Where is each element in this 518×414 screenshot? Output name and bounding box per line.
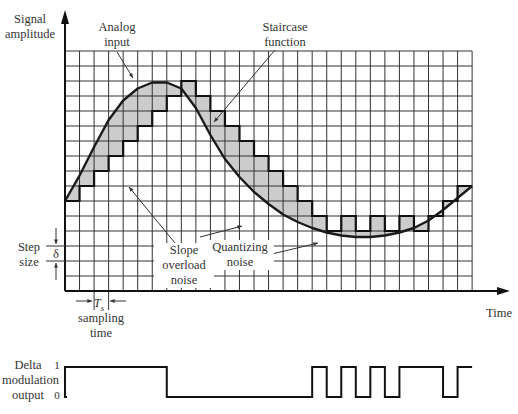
step-size-label: Step size [14,240,44,270]
delta-modulation-diagram [0,0,518,414]
delta-modulation-waveform [65,367,472,397]
y-axis-label: Signal amplitude [2,12,58,42]
sampling-time-label: sampling time [74,311,128,341]
step-size-arrow-up-head-icon [54,263,58,268]
y-axis-arrow-icon [61,10,69,24]
slope-overload-label: Slope overload noise [154,243,214,288]
x-axis-arrow-icon [497,287,510,295]
analog-input-label: Analog input [92,20,142,50]
staircase-function-label: Staircase function [252,20,318,50]
ts-arrow-left-head-icon [110,299,115,303]
level-zero-label: 0 [53,388,61,403]
level-one-label: 1 [53,358,61,373]
output-label: Delta modulation output [2,358,54,403]
delta-symbol: δ [50,247,62,262]
time-axis-label: Time [484,306,514,321]
step-size-arrow-down-head-icon [54,239,58,244]
quantizing-pointer [272,243,318,254]
quantizing-noise-label: Quantizing noise [206,240,274,270]
